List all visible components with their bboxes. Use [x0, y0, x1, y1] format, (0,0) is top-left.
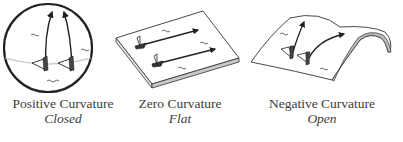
positive-curvature-caption: Positive Curvature Closed [3, 96, 123, 126]
caption-subtitle: Flat [120, 111, 240, 126]
flat-slab-figure [116, 11, 239, 88]
caption-subtitle: Closed [3, 111, 123, 126]
sphere-figure [4, 4, 92, 92]
negative-curvature-caption: Negative Curvature Open [262, 96, 382, 126]
caption-title: Zero Curvature [120, 96, 240, 111]
caption-title: Negative Curvature [262, 96, 382, 111]
caption-title: Positive Curvature [3, 96, 123, 111]
zero-curvature-caption: Zero Curvature Flat [120, 96, 240, 126]
caption-subtitle: Open [262, 111, 382, 126]
curvature-figures [0, 0, 403, 96]
saddle-figure [251, 15, 391, 81]
